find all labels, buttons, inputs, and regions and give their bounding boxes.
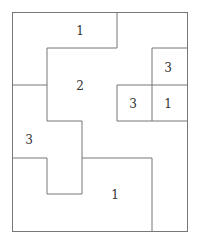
clue-2: 2 [70, 79, 90, 93]
clue-4: 3 [123, 97, 143, 111]
clue-6: 3 [19, 133, 39, 147]
clue-3: 3 [158, 61, 178, 75]
clue-1: 1 [70, 24, 90, 38]
puzzle-grid [0, 0, 199, 241]
clue-5: 1 [158, 97, 178, 111]
outer-border [13, 13, 188, 232]
clue-7: 1 [105, 188, 125, 202]
